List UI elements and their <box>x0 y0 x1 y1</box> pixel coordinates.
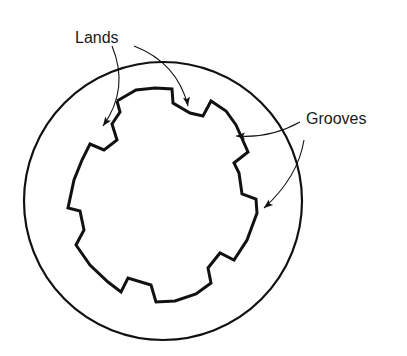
grooves-arrow-upper <box>236 122 300 140</box>
arrowhead-icon <box>100 117 111 128</box>
rifling-diagram <box>0 0 407 356</box>
lands-arrow-right <box>134 46 191 107</box>
lands-label: Lands <box>75 30 119 46</box>
callout-arrows <box>100 46 304 211</box>
grooves-label: Grooves <box>306 111 366 127</box>
grooves-arrow-lower <box>262 140 304 211</box>
bore-outline-lands-and-grooves <box>68 88 257 302</box>
barrel-outer-wall <box>24 62 302 340</box>
